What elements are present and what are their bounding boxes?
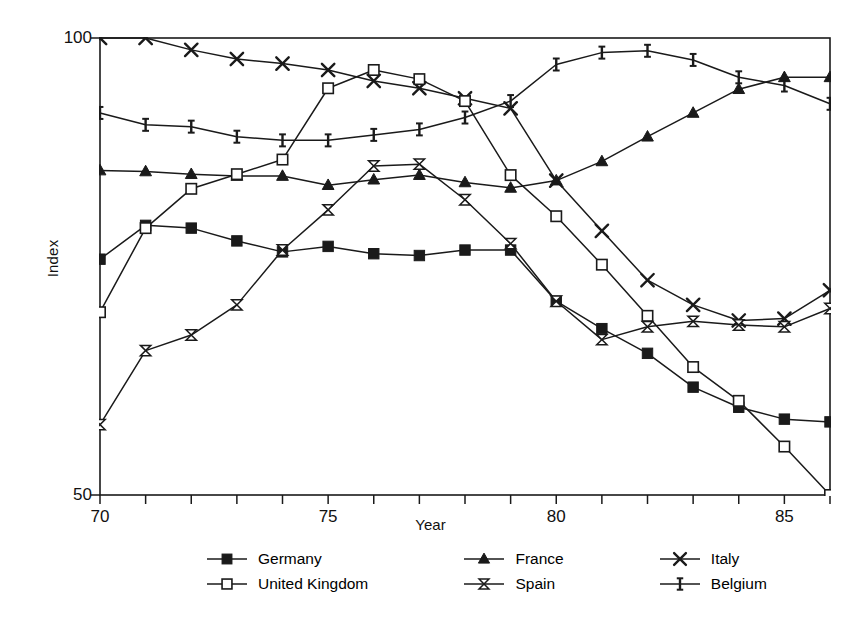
marker-cross-x xyxy=(687,299,699,311)
legend-item-france[interactable]: France xyxy=(462,550,563,568)
marker-filled-square xyxy=(779,414,789,424)
legend-item-united-kingdom[interactable]: United Kingdom xyxy=(205,575,368,593)
marker-open-square xyxy=(551,211,561,221)
x-tick-label: 70 xyxy=(91,507,110,527)
marker-open-square xyxy=(642,311,652,321)
marker-cross-x xyxy=(596,225,608,237)
marker-open-square xyxy=(779,441,789,451)
series-line xyxy=(100,77,830,188)
marker-filled-square xyxy=(323,241,333,251)
marker-bowtie xyxy=(140,345,150,355)
marker-open-square xyxy=(222,579,232,589)
figure: Index Year 7075808510050 GermanyFranceIt… xyxy=(0,0,861,639)
series-line xyxy=(100,70,830,495)
legend-item-italy[interactable]: Italy xyxy=(658,550,739,568)
series-france xyxy=(94,71,836,192)
axes-layer xyxy=(91,38,830,504)
marker-bowtie xyxy=(505,238,515,248)
marker-filled-square xyxy=(369,249,379,259)
marker-open-square xyxy=(140,223,150,233)
marker-filled-triangle xyxy=(824,71,836,82)
chart-page: Index Year 7075808510050 GermanyFranceIt… xyxy=(0,0,861,639)
plot-canvas xyxy=(0,0,861,639)
marker-filled-square xyxy=(825,417,835,427)
marker-filled-square xyxy=(186,223,196,233)
marker-open-square xyxy=(95,307,105,317)
legend-item-belgium[interactable]: Belgium xyxy=(658,575,767,593)
marker-open-square xyxy=(688,362,698,372)
marker-filled-triangle xyxy=(140,165,152,176)
legend-label: Germany xyxy=(258,550,322,568)
marker-open-square xyxy=(323,83,333,93)
legend-label: Spain xyxy=(515,575,555,593)
marker-open-square xyxy=(460,96,470,106)
marker-open-square xyxy=(369,65,379,75)
marker-open-square xyxy=(505,170,515,180)
x-tick-label: 85 xyxy=(775,507,794,527)
marker-filled-square xyxy=(642,348,652,358)
legend-label: Belgium xyxy=(711,575,767,593)
y-tick-label: 50 xyxy=(52,485,92,505)
marker-bowtie xyxy=(825,303,835,313)
marker-open-square xyxy=(414,74,424,84)
legend-item-germany[interactable]: Germany xyxy=(205,550,322,568)
marker-open-square xyxy=(186,184,196,194)
marker-filled-triangle xyxy=(687,107,699,118)
marker-filled-square xyxy=(688,382,698,392)
x-tick-label: 80 xyxy=(547,507,566,527)
marker-filled-square xyxy=(95,254,105,264)
marker-bowtie xyxy=(460,195,470,205)
x-tick-label: 75 xyxy=(319,507,338,527)
y-tick-label: 100 xyxy=(52,28,92,48)
marker-bowtie xyxy=(232,300,242,310)
legend-key-open-square-icon xyxy=(205,576,249,592)
legend-item-spain[interactable]: Spain xyxy=(462,575,555,593)
legend-key-filled-triangle-icon xyxy=(462,551,506,567)
marker-filled-square xyxy=(597,323,607,333)
legend-key-filled-square-icon xyxy=(205,551,249,567)
marker-bowtie xyxy=(186,330,196,340)
legend-label: France xyxy=(515,550,563,568)
marker-bowtie xyxy=(95,419,105,429)
marker-filled-square xyxy=(414,250,424,260)
x-axis-title: Year xyxy=(0,516,861,533)
legend-key-i-bar-icon xyxy=(658,576,702,592)
marker-bowtie xyxy=(323,205,333,215)
marker-bowtie xyxy=(597,334,607,344)
marker-i-bar xyxy=(827,98,834,110)
marker-filled-triangle xyxy=(642,131,654,142)
legend-key-bowtie-icon xyxy=(462,576,506,592)
marker-cross-x xyxy=(185,44,197,56)
marker-open-square xyxy=(734,396,744,406)
marker-open-square xyxy=(232,169,242,179)
legend-key-cross-x-icon xyxy=(658,551,702,567)
marker-filled-triangle xyxy=(413,169,425,180)
legend-label: Italy xyxy=(711,550,739,568)
legend-label: United Kingdom xyxy=(258,575,368,593)
marker-filled-square xyxy=(232,236,242,246)
marker-filled-triangle xyxy=(596,155,608,166)
legend: GermanyFranceItalyUnited KingdomSpainBel… xyxy=(205,550,835,593)
marker-cross-x xyxy=(641,274,653,286)
marker-open-square xyxy=(277,154,287,164)
y-axis-title: Index xyxy=(44,199,61,319)
series-layer xyxy=(94,32,836,500)
marker-filled-triangle xyxy=(94,164,106,175)
marker-filled-square xyxy=(460,245,470,255)
marker-filled-square xyxy=(222,554,232,564)
marker-filled-triangle xyxy=(277,170,289,181)
marker-open-square xyxy=(597,259,607,269)
marker-filled-triangle xyxy=(479,553,490,563)
